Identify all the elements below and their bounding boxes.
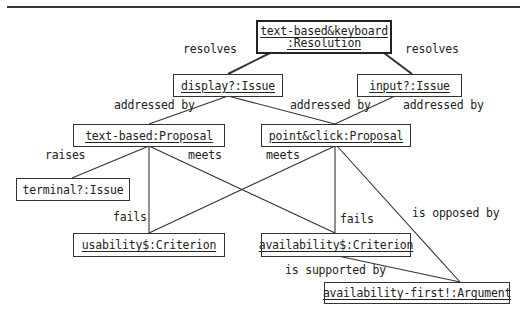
- edge-label-is-supported-by: is supported by: [285, 264, 386, 276]
- edge-label-resolves-right: resolves: [405, 43, 459, 55]
- edge-label-addressed-by-1: addressed by: [114, 99, 195, 111]
- node-input-issue[interactable]: input?:Issue: [357, 74, 462, 97]
- edge-label-addressed-by-2: addressed by: [290, 99, 371, 111]
- edge-resolves-display: [228, 53, 270, 74]
- edge-label-meets-1: meets: [188, 149, 222, 161]
- edge-resolves-input: [384, 53, 412, 74]
- edge-label-raises: raises: [45, 149, 85, 161]
- edge-label-resolves-left: resolves: [183, 43, 237, 55]
- node-label: availability$:Criterion: [259, 239, 414, 251]
- node-label: point&click:Proposal: [269, 130, 403, 142]
- edge-label-is-opposed-by: is opposed by: [412, 207, 499, 219]
- node-label: usability$:Criterion: [82, 239, 216, 251]
- node-resolution[interactable]: text-based&keyboard :Resolution: [256, 20, 392, 54]
- node-label: terminal?:Issue: [23, 184, 124, 196]
- edge-label-fails-2: fails: [340, 213, 374, 225]
- node-label: availability-first!:Argument: [323, 287, 511, 299]
- node-availability-criterion[interactable]: availability$:Criterion: [261, 233, 411, 257]
- edge-label-addressed-by-3: addressed by: [403, 99, 484, 111]
- node-terminal-issue[interactable]: terminal?:Issue: [16, 178, 130, 201]
- node-label: display?:Issue: [181, 80, 275, 92]
- edge-label-meets-2: meets: [266, 149, 300, 161]
- edge-label-fails-1: fails: [113, 211, 147, 223]
- node-point-click-proposal[interactable]: point&click:Proposal: [261, 124, 411, 147]
- node-label: input?:Issue: [369, 80, 450, 92]
- node-text-based-proposal[interactable]: text-based:Proposal: [73, 124, 225, 147]
- node-resolution-line2: :Resolution: [287, 37, 361, 49]
- node-label: text-based:Proposal: [85, 130, 213, 142]
- node-availability-first-argument[interactable]: availability-first!:Argument: [324, 282, 510, 304]
- node-display-issue[interactable]: display?:Issue: [173, 74, 283, 97]
- node-usability-criterion[interactable]: usability$:Criterion: [73, 233, 225, 257]
